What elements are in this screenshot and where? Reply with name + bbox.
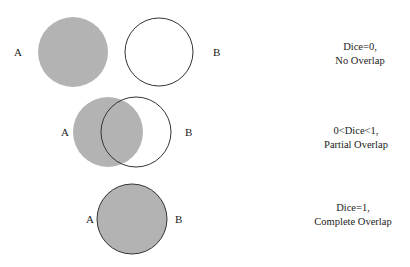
- row1-label-a: A: [14, 46, 22, 59]
- row1-label-b: B: [213, 46, 220, 59]
- row3-caption-line2: Complete Overlap: [293, 215, 410, 229]
- row1-circle-a: [38, 17, 108, 87]
- row2-caption-line1: 0<Dice<1,: [296, 124, 410, 138]
- row2-circle-a: [73, 97, 143, 167]
- row3-caption: Dice=1, Complete Overlap: [293, 201, 410, 229]
- row1-caption: Dice=0, No Overlap: [300, 40, 410, 68]
- row1-caption-line2: No Overlap: [300, 54, 410, 68]
- row3-circle-ab: [97, 184, 167, 254]
- row2-label-a: A: [61, 126, 69, 139]
- row2-caption: 0<Dice<1, Partial Overlap: [296, 124, 410, 152]
- row2-label-b: B: [185, 126, 192, 139]
- row3-label-b: B: [175, 213, 182, 226]
- row2-caption-line2: Partial Overlap: [296, 138, 410, 152]
- row3-label-a: A: [86, 213, 94, 226]
- row1-circle-b: [125, 18, 193, 86]
- row1-caption-line1: Dice=0,: [300, 40, 410, 54]
- row3-caption-line1: Dice=1,: [293, 201, 410, 215]
